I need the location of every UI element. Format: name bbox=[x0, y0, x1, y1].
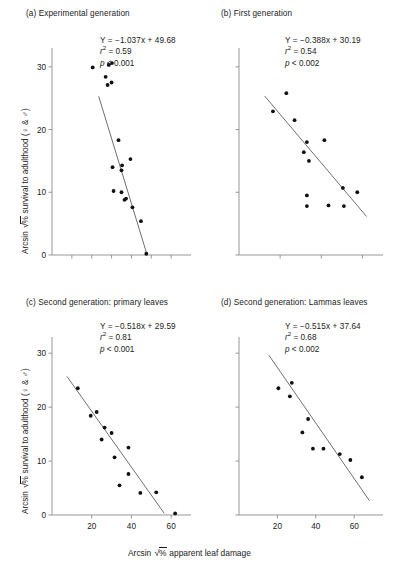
y-label-suffix: survival to adulthood (♀ & ♂) bbox=[21, 368, 30, 475]
y-axis-label-c: Arcsin √% survival to adulthood (♀ & ♂) bbox=[20, 368, 30, 514]
data-point bbox=[131, 205, 135, 209]
data-point bbox=[120, 163, 124, 167]
y-tick-label: 30 bbox=[37, 63, 47, 72]
x-tick-label: 20 bbox=[87, 522, 97, 531]
data-point bbox=[293, 118, 297, 122]
y-label-suffix: survival to adulthood (♀ & ♂) bbox=[21, 108, 30, 215]
plot-area-d: 204060 bbox=[197, 289, 394, 578]
data-point bbox=[89, 414, 93, 418]
regression-line bbox=[265, 96, 367, 216]
data-point bbox=[327, 204, 331, 208]
data-point bbox=[112, 189, 116, 193]
data-point bbox=[100, 438, 104, 442]
y-tick-label: 0 bbox=[41, 511, 46, 520]
data-point bbox=[95, 410, 99, 414]
y-tick-label: 10 bbox=[37, 457, 47, 466]
y-label-prefix: Arcsin bbox=[21, 229, 30, 254]
y-tick-label: 0 bbox=[41, 251, 46, 260]
data-point bbox=[311, 447, 315, 451]
data-point bbox=[173, 511, 177, 515]
x-tick-label: 40 bbox=[127, 522, 137, 531]
sqrt-symbol-y: √% bbox=[20, 476, 30, 489]
data-point bbox=[284, 91, 288, 95]
chart-panel-b: (b) First generationY = −0.388x + 30.19r… bbox=[197, 0, 394, 289]
chart-panel-a: (a) Experimental generationY = −1.037x +… bbox=[0, 0, 197, 289]
data-point bbox=[138, 491, 142, 495]
x-tick-label: 60 bbox=[167, 522, 177, 531]
data-point bbox=[305, 140, 309, 144]
data-point bbox=[322, 447, 326, 451]
y-axis-label-a: Arcsin √% survival to adulthood (♀ & ♂) bbox=[20, 108, 30, 254]
y-tick-label: 20 bbox=[37, 126, 47, 135]
data-point bbox=[111, 165, 115, 169]
data-point bbox=[124, 197, 128, 201]
data-point bbox=[307, 159, 311, 163]
data-point bbox=[348, 458, 352, 462]
data-point bbox=[104, 75, 108, 79]
data-point bbox=[305, 204, 309, 208]
y-tick-label: 10 bbox=[37, 188, 47, 197]
radicand-percent: % bbox=[159, 547, 167, 558]
data-point bbox=[107, 63, 111, 67]
y-tick-label: 30 bbox=[37, 349, 47, 358]
data-point bbox=[118, 483, 122, 487]
data-point bbox=[306, 417, 310, 421]
data-point bbox=[341, 186, 345, 190]
data-point bbox=[139, 219, 143, 223]
x-label-suffix: apparent leaf damage bbox=[167, 548, 251, 558]
chart-panel-c: (c) Second generation: primary leavesY =… bbox=[0, 289, 197, 578]
data-point bbox=[144, 252, 148, 256]
x-tick-label: 40 bbox=[311, 522, 321, 531]
sqrt-symbol-x: √% bbox=[154, 547, 167, 558]
data-point bbox=[127, 446, 131, 450]
y-label-prefix: Arcsin bbox=[21, 489, 30, 514]
data-point bbox=[322, 138, 326, 142]
data-point bbox=[117, 138, 121, 142]
data-point bbox=[106, 83, 110, 87]
data-point bbox=[355, 190, 359, 194]
data-point bbox=[110, 61, 114, 65]
x-axis-label-shared: Arcsin √% apparent leaf damage bbox=[128, 547, 251, 558]
x-label-prefix: Arcsin bbox=[128, 548, 154, 558]
data-point bbox=[120, 190, 124, 194]
data-point bbox=[154, 490, 158, 494]
x-tick-label: 60 bbox=[350, 522, 360, 531]
data-point bbox=[305, 194, 309, 198]
data-point bbox=[360, 475, 364, 479]
radicand-percent: % bbox=[20, 216, 30, 224]
data-point bbox=[110, 81, 114, 85]
data-point bbox=[103, 426, 107, 430]
data-point bbox=[91, 66, 95, 70]
y-tick-label: 20 bbox=[37, 403, 47, 412]
radicand-percent: % bbox=[20, 476, 30, 484]
chart-panel-d: (d) Second generation: Lammas leavesY = … bbox=[197, 289, 394, 578]
x-tick-label: 20 bbox=[273, 522, 283, 531]
data-point bbox=[113, 455, 117, 459]
data-point bbox=[342, 204, 346, 208]
data-point bbox=[302, 150, 306, 154]
data-point bbox=[290, 381, 294, 385]
data-point bbox=[110, 431, 114, 435]
sqrt-symbol-y: √% bbox=[20, 216, 30, 229]
regression-line bbox=[99, 96, 147, 255]
data-point bbox=[338, 452, 342, 456]
data-point bbox=[76, 386, 80, 390]
regression-line bbox=[67, 376, 164, 513]
data-point bbox=[127, 472, 131, 476]
data-point bbox=[276, 386, 280, 390]
data-point bbox=[120, 168, 124, 172]
data-point bbox=[129, 157, 133, 161]
data-point bbox=[271, 109, 275, 113]
data-point bbox=[300, 431, 304, 435]
plot-area-b bbox=[197, 0, 394, 289]
regression-line bbox=[269, 355, 370, 501]
figure-panel-grid: (a) Experimental generationY = −1.037x +… bbox=[0, 0, 394, 578]
data-point bbox=[288, 394, 292, 398]
